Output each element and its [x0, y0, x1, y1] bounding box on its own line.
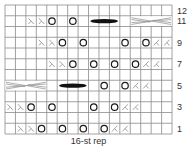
- yarn-over-icon: [91, 61, 97, 67]
- k2tog-icon: [154, 61, 159, 67]
- ssk-icon: [49, 61, 54, 67]
- yarn-over-icon: [132, 61, 138, 67]
- k2tog-icon: [112, 126, 117, 132]
- yarn-over-icon: [38, 125, 44, 131]
- yarn-over-icon: [49, 104, 55, 110]
- yarn-over-icon: [101, 125, 107, 131]
- bobble-icon: [59, 83, 86, 87]
- k2tog-icon: [143, 83, 148, 89]
- yarn-over-icon: [111, 61, 117, 67]
- row-number-label: 3: [177, 102, 182, 112]
- k2tog-icon: [154, 40, 159, 46]
- yarn-over-icon: [59, 125, 65, 131]
- yarn-over-icon: [70, 61, 76, 67]
- row-number-label: 11: [177, 16, 186, 26]
- k2tog-icon: [122, 126, 127, 132]
- k2tog-icon: [133, 83, 138, 89]
- row-number-label: 1: [177, 124, 182, 134]
- row-number-label: 9: [177, 38, 182, 48]
- ssk-icon: [39, 40, 44, 46]
- k2tog-icon: [133, 104, 138, 110]
- yarn-over-icon: [101, 82, 107, 88]
- yarn-over-icon: [80, 39, 86, 45]
- ssk-icon: [60, 61, 65, 67]
- ssk-icon: [39, 18, 44, 24]
- yarn-over-icon: [80, 125, 86, 131]
- k2tog-icon: [164, 40, 169, 46]
- yarn-over-icon: [49, 18, 55, 24]
- ssk-icon: [18, 104, 23, 110]
- ssk-icon: [8, 104, 13, 110]
- yarn-over-icon: [111, 104, 117, 110]
- ssk-icon: [28, 126, 33, 132]
- yarn-over-icon: [122, 82, 128, 88]
- yarn-over-icon: [28, 104, 34, 110]
- yarn-over-icon: [143, 39, 149, 45]
- row-number-label: 5: [177, 81, 182, 91]
- ssk-icon: [28, 18, 33, 24]
- yarn-over-icon: [122, 39, 128, 45]
- yarn-over-icon: [70, 18, 76, 24]
- row-number-label: 12: [177, 6, 187, 16]
- ssk-icon: [49, 40, 54, 46]
- knitting-chart: [0, 0, 191, 148]
- bobble-icon: [91, 19, 118, 23]
- ssk-icon: [18, 126, 23, 132]
- yarn-over-icon: [59, 39, 65, 45]
- yarn-over-icon: [91, 104, 97, 110]
- row-number-label: 7: [177, 59, 182, 69]
- repeat-label: 16-st rep: [0, 136, 177, 146]
- k2tog-icon: [122, 104, 127, 110]
- k2tog-icon: [143, 61, 148, 67]
